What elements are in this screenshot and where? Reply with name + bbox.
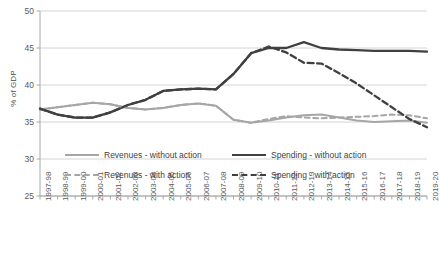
legend-label: Revenues - with action	[104, 170, 190, 180]
legend-swatch-icon	[232, 154, 266, 156]
legend-label: Revenues - without action	[104, 150, 202, 160]
series-line-1	[40, 42, 427, 117]
y-tick-label: 45	[10, 43, 34, 53]
series-line-2	[40, 103, 427, 123]
y-tick-label: 25	[10, 191, 34, 201]
y-tick-label: 40	[10, 80, 34, 90]
legend-item[interactable]: Revenues - without action	[65, 150, 202, 160]
x-tick-label: 2007-08	[219, 172, 228, 201]
x-tick-label: 2016-17	[378, 172, 387, 201]
legend-label: Spending - with action	[271, 170, 355, 180]
x-tick-label: 2017-18	[395, 172, 404, 201]
y-tick-label: 50	[10, 6, 34, 16]
x-tick-label: 2006-07	[202, 172, 211, 201]
x-tick-label: 2018-19	[413, 172, 422, 201]
legend-item[interactable]: Spending - with action	[232, 170, 355, 180]
y-tick-label: 35	[10, 117, 34, 127]
legend-label: Spending - without action	[271, 150, 366, 160]
x-tick-label: 1997-98	[44, 172, 53, 201]
x-tick-label: 2019-20	[431, 172, 440, 201]
x-tick-label: 2015-16	[360, 172, 369, 201]
legend-item[interactable]: Revenues - with action	[65, 170, 190, 180]
legend-item[interactable]: Spending - without action	[232, 150, 366, 160]
series-line-3	[40, 47, 427, 128]
y-tick-label: 30	[10, 154, 34, 164]
legend-swatch-icon	[65, 174, 99, 176]
legend-swatch-icon	[65, 154, 99, 156]
legend-swatch-icon	[232, 174, 266, 176]
